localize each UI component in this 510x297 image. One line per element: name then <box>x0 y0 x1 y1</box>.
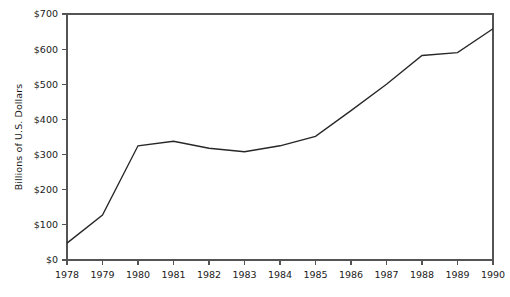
x-tick-label: 1980 <box>126 269 150 280</box>
chart-canvas: $0$100$200$300$400$500$600$700 197819791… <box>0 0 510 297</box>
y-tick-label: $200 <box>34 184 58 195</box>
x-tick-label: 1990 <box>481 269 505 280</box>
x-tick-label: 1985 <box>303 269 327 280</box>
x-tick-label: 1984 <box>268 269 292 280</box>
x-tick-label: 1982 <box>197 269 221 280</box>
y-axis-tick-labels: $0$100$200$300$400$500$600$700 <box>34 8 58 265</box>
x-tick-label: 1983 <box>232 269 256 280</box>
x-axis-tick-labels: 1978197919801981198219831984198519861987… <box>55 269 505 280</box>
x-tick-label: 1978 <box>55 269 79 280</box>
x-axis-ticks <box>67 260 493 265</box>
x-tick-label: 1986 <box>339 269 363 280</box>
y-tick-label: $500 <box>34 79 58 90</box>
y-tick-label: $300 <box>34 149 58 160</box>
x-tick-label: 1987 <box>374 269 398 280</box>
y-tick-label: $400 <box>34 114 58 125</box>
y-axis-ticks <box>62 14 67 260</box>
x-tick-label: 1979 <box>90 269 114 280</box>
y-axis-title: Billions of U.S. Dollars <box>13 84 24 191</box>
y-tick-label: $600 <box>34 44 58 55</box>
data-series-line <box>67 29 493 243</box>
y-tick-label: $100 <box>34 219 58 230</box>
x-tick-label: 1988 <box>410 269 434 280</box>
y-tick-label: $700 <box>34 8 58 19</box>
y-tick-label: $0 <box>46 254 58 265</box>
line-chart: $0$100$200$300$400$500$600$700 197819791… <box>0 0 510 297</box>
x-tick-label: 1981 <box>161 269 185 280</box>
plot-frame <box>67 14 493 260</box>
x-tick-label: 1989 <box>445 269 469 280</box>
